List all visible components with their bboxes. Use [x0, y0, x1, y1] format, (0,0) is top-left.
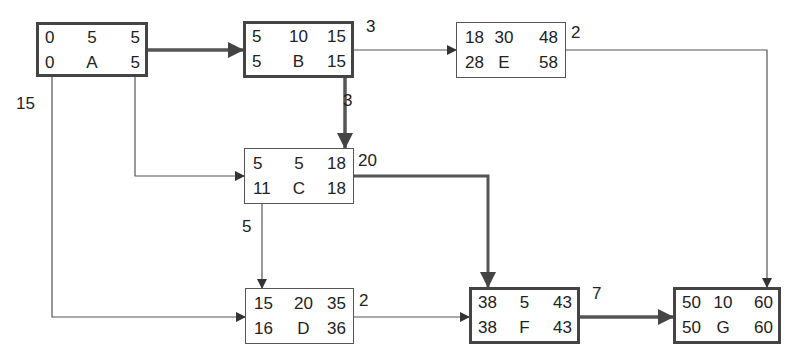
early-finish: 15	[327, 27, 346, 47]
late-finish: 18	[327, 179, 346, 199]
early-finish: 48	[539, 28, 558, 48]
activity-node-d: 15 20 35 16 D 36	[245, 288, 354, 344]
early-finish: 35	[327, 294, 346, 314]
activity-node-f: 38 5 43 38 F 43	[469, 287, 580, 344]
early-finish: 5	[131, 28, 140, 48]
late-finish: 60	[754, 318, 773, 338]
activity-node-b: 5 10 15 5 B 15	[243, 21, 354, 78]
late-finish: 15	[327, 52, 346, 72]
duration: 5	[39, 28, 145, 48]
edge-label-b-c: 3	[343, 91, 352, 111]
late-finish: 58	[539, 53, 558, 73]
activity-node-g: 50 10 60 50 G 60	[673, 287, 781, 344]
edge-a-c	[135, 77, 244, 176]
activity-node-e: 18 30 48 28 E 58	[456, 22, 566, 78]
activity-name: A	[39, 53, 145, 73]
edge-c-f	[354, 176, 488, 287]
early-finish: 18	[327, 154, 346, 174]
edge-a-d	[52, 77, 245, 317]
edge-label-c-f: 20	[358, 151, 377, 171]
activity-node-c: 5 5 18 11 C 18	[244, 148, 354, 204]
edge-label-f-g: 7	[592, 284, 601, 304]
edge-label-e-g: 2	[571, 23, 580, 43]
edge-label-b-e: 3	[366, 17, 375, 37]
early-finish: 43	[553, 293, 572, 313]
edge-label-c-d: 5	[242, 217, 251, 237]
edge-label-d-f: 2	[359, 291, 368, 311]
late-finish: 36	[327, 319, 346, 339]
edge-e-g	[566, 50, 767, 287]
edge-label-a-d: 15	[16, 94, 35, 114]
activity-node-a: 0 5 5 0 A 5	[36, 22, 148, 77]
late-finish: 43	[553, 318, 572, 338]
early-finish: 60	[754, 293, 773, 313]
late-finish: 5	[131, 53, 140, 73]
